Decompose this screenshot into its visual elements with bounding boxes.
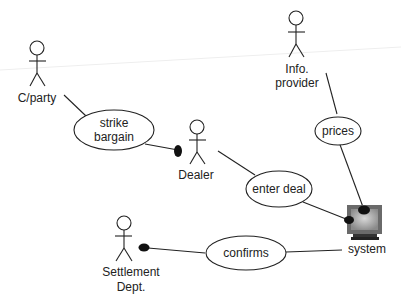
actor-system[interactable]: system — [344, 205, 386, 256]
use-case-enter-deal[interactable]: enter deal — [246, 171, 312, 207]
use-case-prices[interactable]: prices — [315, 117, 361, 145]
line-confirms-system — [286, 250, 342, 252]
actor-label-line-2: provider — [275, 76, 318, 90]
use-case-strike-bargain[interactable]: strike bargain — [74, 110, 154, 150]
line-dealer-enter-deal — [218, 151, 255, 175]
use-case-label: prices — [322, 124, 354, 138]
actor-label: C/party — [18, 91, 57, 105]
stick-figure-icon — [288, 11, 305, 57]
use-case-label-line-2: bargain — [94, 130, 134, 144]
actor-dealer[interactable]: Dealer — [178, 120, 213, 182]
stick-figure-icon — [189, 120, 206, 164]
actor-label: system — [348, 242, 386, 256]
line-settlement-confirms — [148, 248, 205, 253]
stick-figure-icon — [29, 41, 46, 86]
actor-label: Dealer — [178, 168, 213, 182]
use-case-diagram: C/party Dealer Info. provider — [0, 0, 401, 304]
associations — [64, 73, 363, 253]
actor-cparty[interactable]: C/party — [18, 41, 57, 105]
stick-figure-icon — [115, 216, 132, 261]
use-case-label-line-1: strike — [100, 116, 129, 130]
actor-info-provider[interactable]: Info. provider — [275, 11, 318, 90]
line-prices-system — [339, 142, 363, 207]
association-end-system-left — [344, 216, 354, 224]
actor-label-line-1: Settlement — [102, 265, 160, 279]
association-end-system-top — [358, 206, 370, 215]
association-end-dealer — [174, 145, 182, 157]
use-case-label: confirms — [223, 246, 268, 260]
actor-label-line-1: Info. — [285, 62, 308, 76]
actor-settlement-dept[interactable]: Settlement Dept. — [102, 216, 160, 294]
actor-label-line-2: Dept. — [117, 280, 146, 294]
use-case-label: enter deal — [252, 182, 305, 196]
line-info-provider-prices — [326, 73, 337, 114]
association-end-settlement — [139, 244, 150, 252]
use-case-confirms[interactable]: confirms — [206, 236, 286, 270]
line-enter-deal-system — [303, 202, 346, 219]
line-cparty-strike-bargain — [64, 95, 86, 116]
line-strike-bargain-dealer — [145, 144, 178, 150]
